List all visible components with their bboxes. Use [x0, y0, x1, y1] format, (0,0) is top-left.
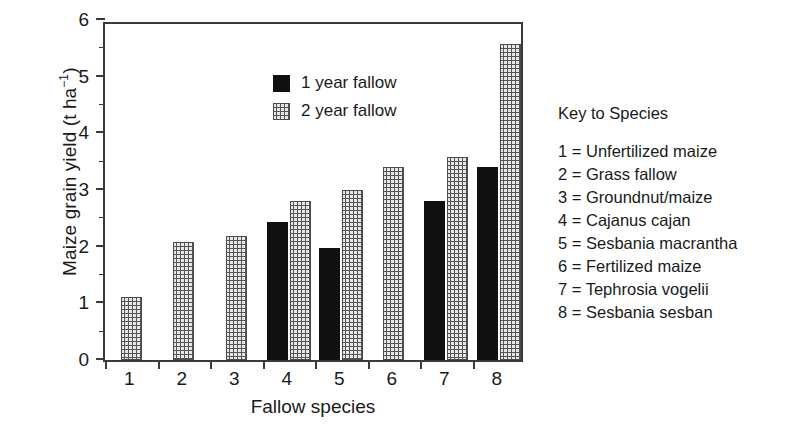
legend-label: 2 year fallow: [301, 101, 396, 121]
y-axis-tick: [96, 131, 105, 133]
species-key-entry: 1 = Unfertilized maize: [558, 140, 737, 163]
species-key: Key to Species 1 = Unfertilized maize2 =…: [558, 102, 737, 324]
legend-item: 1 year fallow: [273, 72, 396, 94]
y-axis-title: Maize grain yield (t ha−1): [57, 7, 80, 337]
y-axis-tick-label: 4: [0, 122, 89, 144]
y-axis-tick: [96, 75, 105, 77]
figure: Maize grain yield (t ha−1) 1 year fallow…: [0, 0, 791, 427]
x-axis-tick: [315, 360, 317, 369]
x-axis-title: Fallow species: [103, 396, 523, 418]
y-axis-minor-tick: [99, 331, 105, 332]
x-axis-tick-label: 5: [319, 368, 359, 390]
legend-item: 2 year fallow: [273, 100, 396, 122]
y-axis-minor-tick: [99, 161, 105, 162]
x-axis-tick-label: 1: [109, 368, 149, 390]
bar-2-year-fallow: [290, 201, 311, 360]
y-axis-minor-tick: [99, 104, 105, 105]
y-axis-tick-label: 5: [0, 66, 89, 88]
species-key-entry: 3 = Groundnut/maize: [558, 186, 737, 209]
legend: 1 year fallow2 year fallow: [273, 72, 396, 128]
x-axis-tick: [368, 360, 370, 369]
bar-2-year-fallow: [342, 190, 363, 360]
x-axis-tick-label: 7: [424, 368, 464, 390]
bar-1-year-fallow: [424, 201, 445, 360]
species-key-entry: 2 = Grass fallow: [558, 163, 737, 186]
y-axis-tick: [96, 301, 105, 303]
x-axis-tick-label: 6: [372, 368, 412, 390]
y-axis-minor-tick: [99, 47, 105, 48]
x-axis-tick: [420, 360, 422, 369]
species-key-entry: 7 = Tephrosia vogelii: [558, 278, 737, 301]
y-axis-minor-tick: [99, 274, 105, 275]
species-key-entry: 5 = Sesbania macrantha: [558, 232, 737, 255]
y-axis-tick-label: 1: [0, 292, 89, 314]
legend-swatch-dotted-icon: [273, 103, 290, 120]
y-axis-tick-label: 3: [0, 179, 89, 201]
bar-2-year-fallow: [226, 236, 247, 360]
species-key-entry: 4 = Cajanus cajan: [558, 209, 737, 232]
species-key-entry: 6 = Fertilized maize: [558, 255, 737, 278]
bar-1-year-fallow: [319, 248, 340, 360]
bar-1-year-fallow: [477, 167, 498, 360]
y-axis-tick-label: 6: [0, 9, 89, 31]
legend-swatch-solid-icon: [273, 75, 290, 92]
x-axis-tick: [105, 360, 107, 369]
species-key-title: Key to Species: [558, 102, 737, 125]
bar-1-year-fallow: [267, 222, 288, 360]
x-axis-tick-label: 8: [477, 368, 517, 390]
x-axis-tick: [210, 360, 212, 369]
y-axis-tick: [96, 245, 105, 247]
x-axis-tick: [158, 360, 160, 369]
species-key-entry: 8 = Sesbania sesban: [558, 301, 737, 324]
plot-area: 1 year fallow2 year fallow: [103, 22, 523, 362]
x-axis-tick-label: 2: [162, 368, 202, 390]
bar-2-year-fallow: [447, 157, 468, 360]
bar-2-year-fallow: [121, 297, 142, 360]
y-axis-tick: [96, 188, 105, 190]
bar-2-year-fallow: [500, 44, 521, 360]
bar-2-year-fallow: [173, 242, 194, 360]
x-axis-tick: [263, 360, 265, 369]
x-axis-tick-label: 4: [267, 368, 307, 390]
x-axis-tick: [473, 360, 475, 369]
x-axis-tick-label: 3: [214, 368, 254, 390]
y-axis-tick-label: 0: [0, 349, 89, 371]
y-axis-tick-label: 2: [0, 236, 89, 258]
y-axis-tick: [96, 18, 105, 20]
y-axis-tick: [96, 358, 105, 360]
bar-2-year-fallow: [383, 167, 404, 360]
y-axis-minor-tick: [99, 217, 105, 218]
legend-label: 1 year fallow: [301, 73, 396, 93]
